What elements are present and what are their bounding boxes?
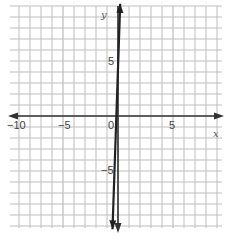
x-axis-right-arrow-icon [214, 113, 224, 120]
x-tick-label: −10 [7, 119, 26, 131]
y-axis-down-arrow-icon [115, 223, 122, 233]
y-tick-label: 5 [108, 55, 114, 67]
x-tick-label: 5 [169, 119, 175, 131]
y-tick-label: −5 [101, 164, 114, 176]
tick-labels: −10 −5 0 5 5 −5 x y [7, 9, 219, 176]
x-tick-label: −5 [58, 119, 71, 131]
y-axis-label: y [100, 9, 107, 20]
x-tick-label: 0 [108, 119, 114, 131]
coordinate-graph: −10 −5 0 5 5 −5 x y [0, 0, 233, 237]
x-axis-label: x [213, 128, 219, 139]
